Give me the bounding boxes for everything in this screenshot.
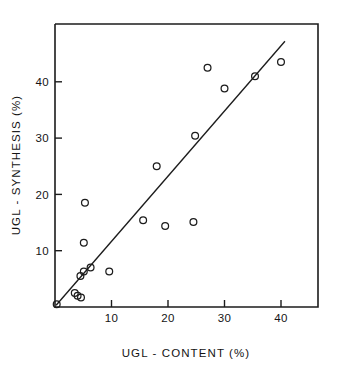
x-tick-label-40: 40 [274, 312, 287, 324]
data-point-marker [190, 219, 197, 226]
x-axis-title: UGL - CONTENT (%) [122, 347, 251, 359]
data-point-marker [162, 223, 169, 230]
data-point-marker [278, 59, 285, 66]
x-axis-ticks [112, 300, 282, 307]
x-tick-label-10: 10 [105, 312, 118, 324]
y-tick-label-30: 30 [36, 132, 49, 144]
y-axis-title: UGL - SYNTHESIS (%) [10, 95, 22, 236]
plot-canvas: 10 20 30 40 10 20 30 40 UGL - CONTENT (%… [0, 0, 339, 373]
data-point-marker [80, 239, 87, 246]
data-point-marker [204, 64, 211, 71]
data-point-marker [82, 199, 89, 206]
data-point-marker [192, 132, 199, 139]
data-point-marker [140, 217, 147, 224]
y-tick-label-10: 10 [36, 245, 49, 257]
data-point-marker [221, 85, 228, 92]
data-point-marker [106, 268, 113, 275]
y-tick-label-20: 20 [36, 189, 49, 201]
scatter-plot-figure: 10 20 30 40 10 20 30 40 UGL - CONTENT (%… [0, 0, 339, 373]
regression-line-path [56, 41, 285, 305]
data-point-marker [153, 163, 160, 170]
x-tick-label-20: 20 [161, 312, 174, 324]
y-tick-label-40: 40 [36, 76, 49, 88]
plot-frame [55, 24, 318, 307]
x-tick-label-30: 30 [218, 312, 231, 324]
data-point-group [53, 59, 284, 308]
regression-line [56, 41, 285, 305]
y-axis-ticks [55, 82, 62, 251]
